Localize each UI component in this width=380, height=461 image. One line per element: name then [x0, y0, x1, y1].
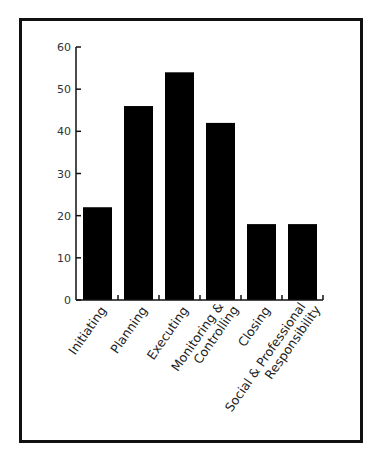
bar: [124, 106, 153, 300]
bar: [288, 224, 317, 300]
x-axis: [76, 295, 323, 300]
x-axis-labels: InitiatingPlanningExecutingMonitoring &C…: [65, 294, 324, 422]
bar-chart: 0102030405060 InitiatingPlanningExecutin…: [0, 0, 380, 461]
y-tick-label: 50: [57, 83, 71, 96]
bars: [83, 72, 317, 300]
svg-text:Initiating: Initiating: [65, 303, 109, 357]
y-axis: 0102030405060: [57, 41, 81, 307]
bar: [247, 224, 276, 300]
svg-text:Planning: Planning: [107, 303, 150, 356]
y-tick-label: 10: [57, 252, 71, 265]
x-category-label: Initiating: [65, 303, 109, 357]
y-tick-label: 0: [64, 294, 71, 307]
x-category-label: Planning: [107, 303, 150, 356]
y-tick-label: 20: [57, 210, 71, 223]
y-tick-label: 40: [57, 125, 71, 138]
bar: [206, 123, 235, 300]
y-tick-label: 60: [57, 41, 71, 54]
bar: [83, 207, 112, 300]
y-tick-label: 30: [57, 168, 71, 181]
bar: [165, 72, 194, 300]
